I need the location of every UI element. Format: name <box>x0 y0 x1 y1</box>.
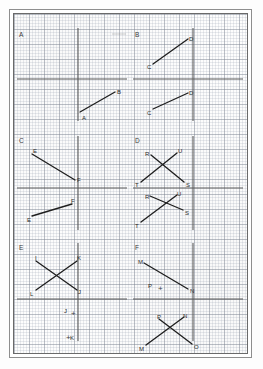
panel-letter-d: D <box>135 138 140 145</box>
panel-f-point-label-m: M <box>139 346 144 352</box>
panel-f-point-label-n: N <box>183 313 187 319</box>
panel-d-segment-rs-upper <box>151 155 184 182</box>
panel-e-point-label-k: K <box>77 255 81 261</box>
panel-letter-f: F <box>135 245 139 252</box>
panel-d-point-label-r: R <box>145 151 149 157</box>
panel-d-point-label-u: U <box>177 191 181 197</box>
panel-b-point-label-d: D <box>189 36 193 42</box>
panel-f-point-label-p: P <box>157 314 161 320</box>
panel-f-plus-mark-p: + <box>158 285 163 293</box>
panel-letter-c: C <box>19 138 24 145</box>
panel-e-point-label-j: J <box>78 289 81 295</box>
panel-d-point-label-s: S <box>185 210 189 216</box>
panel-f-point-label-o: O <box>194 344 199 350</box>
graph-paper: ABACDCDBEFEFCRSTURSTUDIJLK+J+KEMNPOMN+PF <box>13 13 248 354</box>
panel-letter-e: E <box>19 245 23 252</box>
panel-d-point-label-t: T <box>135 223 139 229</box>
panel-b-point-label-d: D <box>189 90 193 96</box>
panel-b-point-label-c: C <box>147 110 151 116</box>
panel-c-point-label-f: F <box>77 177 81 183</box>
panel-a-point-label-a: A <box>82 115 86 121</box>
panel-a-point-label-b: B <box>117 89 121 95</box>
panel-d-point-label-u: U <box>178 148 182 154</box>
panel-c-point-label-f: F <box>71 198 75 204</box>
panel-d-point-label-t: T <box>135 182 139 188</box>
panel-f-point-label-n: N <box>190 288 194 294</box>
panel-a-segment-ab <box>80 92 115 112</box>
panel-e-mark-label-j: J <box>64 308 67 314</box>
panel-c-segment-ef-upper <box>32 154 75 180</box>
panel-d-point-label-r: R <box>145 194 149 200</box>
panel-b-point-label-c: C <box>147 64 151 70</box>
worksheet-sheet: ABACDCDBEFEFCRSTURSTUDIJLK+J+KEMNPOMN+PF <box>0 0 263 369</box>
panel-letter-a: A <box>19 32 23 39</box>
panel-f-mark-label-p: P <box>148 283 152 289</box>
panel-c-point-label-e: E <box>27 217 31 223</box>
panel-e-mark-label-k: K <box>70 335 74 341</box>
panel-d-point-label-s: S <box>186 182 190 188</box>
panel-b-segment-cd-upper <box>153 39 188 64</box>
panel-e-plus-mark-j: + <box>71 310 76 318</box>
drawing-overlay <box>14 14 248 354</box>
panel-e-point-label-l: L <box>30 291 33 297</box>
panel-b-segment-cd-lower <box>153 93 188 109</box>
panel-f-point-label-m: M <box>138 259 143 265</box>
panel-letter-b: B <box>135 32 139 39</box>
panel-c-segment-ef-lower <box>32 204 72 216</box>
panel-e-point-label-i: I <box>35 255 37 261</box>
panel-d-segment-tu-upper <box>141 153 177 182</box>
panel-c-point-label-e: E <box>33 148 37 154</box>
panel-f-segment-mn-lower <box>146 317 184 345</box>
